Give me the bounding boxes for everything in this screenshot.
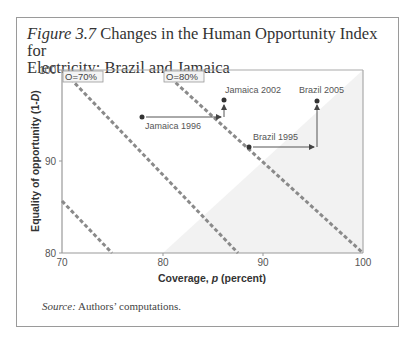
y-tick-80: 80 xyxy=(45,248,57,259)
label-brazil-2005: Brazil 2005 xyxy=(299,85,344,95)
y-tick-90: 90 xyxy=(45,156,57,167)
source-label: Source: xyxy=(42,300,76,312)
x-tick-80: 80 xyxy=(157,257,169,268)
x-tick-90: 90 xyxy=(257,257,269,268)
source-text: Authors’ computations. xyxy=(78,300,181,312)
x-axis-title: Coverage, p (percent) xyxy=(158,272,266,284)
point-jamaica-2002 xyxy=(222,98,227,103)
source-note: Source: Authors’ computations. xyxy=(42,300,181,312)
label-jamaica-1996: Jamaica 1996 xyxy=(145,121,201,131)
point-brazil-2005 xyxy=(315,99,320,104)
x-tick-70: 70 xyxy=(56,257,68,268)
y-axis-title: Equality of opportunity (1-D) xyxy=(29,90,41,232)
label-brazil-1995: Brazil 1995 xyxy=(253,132,298,142)
iso70-label: O=70% xyxy=(65,71,98,82)
iso-line-70 xyxy=(66,74,238,253)
point-jamaica-1996 xyxy=(140,115,145,120)
x-tick-100: 100 xyxy=(355,257,372,268)
y-tick-100: 100 xyxy=(39,65,56,76)
point-brazil-1995 xyxy=(247,145,252,150)
label-jamaica-2002: Jamaica 2002 xyxy=(225,85,281,95)
iso80-label: O=80% xyxy=(166,71,199,82)
iso-line-60 xyxy=(62,201,112,253)
chart: 100 90 80 70 80 90 100 Coverage, p (perc… xyxy=(0,0,418,345)
